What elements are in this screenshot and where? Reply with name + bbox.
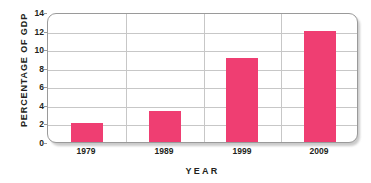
bar xyxy=(226,58,258,142)
y-tick-mark xyxy=(44,13,47,14)
y-tick-mark xyxy=(44,50,47,51)
x-axis-ticks: 1979198919992009 xyxy=(47,147,358,161)
x-tick-label: 1989 xyxy=(125,147,203,156)
bar-series xyxy=(48,14,357,142)
x-tick-label: 1999 xyxy=(203,147,281,156)
bar-chart: 02468101214 1979198919992009 PERCENTAGE … xyxy=(0,0,371,183)
y-tick-mark xyxy=(44,87,47,88)
y-axis-title: PERCENTAGE OF GDP xyxy=(19,0,29,140)
x-axis-title: YEAR xyxy=(47,166,358,176)
y-tick-mark xyxy=(44,106,47,107)
x-tick-label: 1979 xyxy=(47,147,125,156)
y-tick-mark xyxy=(44,124,47,125)
bar xyxy=(71,123,103,142)
y-tick-mark xyxy=(44,32,47,33)
y-tick-label: 0 xyxy=(6,139,44,148)
bar xyxy=(149,111,181,142)
x-tick-label: 2009 xyxy=(280,147,358,156)
bar xyxy=(304,31,336,142)
y-tick-mark xyxy=(44,69,47,70)
plot-area xyxy=(47,13,358,143)
y-tick-mark xyxy=(44,143,47,144)
